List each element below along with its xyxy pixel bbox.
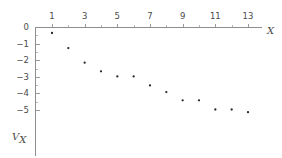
- data-point: [84, 62, 86, 64]
- y-tick-label: −3: [16, 72, 29, 82]
- y-tick-label: −2: [16, 55, 29, 65]
- x-tick-label: 13: [243, 11, 254, 21]
- x-tick-label: 9: [180, 11, 185, 21]
- x-tick-label: 1: [49, 11, 54, 21]
- data-point: [214, 108, 216, 110]
- data-point: [116, 75, 118, 77]
- y-axis-tick-labels: 0−1−2−3−4−5: [16, 22, 29, 115]
- data-point: [165, 91, 167, 93]
- data-point: [198, 99, 200, 101]
- x-axis-label: X: [266, 25, 275, 36]
- x-tick-label: 7: [147, 11, 152, 21]
- data-point: [51, 32, 53, 34]
- data-point: [247, 111, 249, 113]
- x-tick-label: 3: [82, 11, 87, 21]
- scatter-plot-figure: 135791113 0−1−2−3−4−5 X VX: [0, 0, 282, 158]
- data-point-series: [51, 32, 249, 113]
- y-tick-label: −1: [16, 39, 29, 49]
- x-axis-tick-labels: 135791113: [49, 11, 253, 21]
- y-tick-label: −5: [16, 105, 29, 115]
- y-tick-label: 0: [24, 22, 29, 32]
- x-tick-label: 5: [115, 11, 120, 21]
- plot-canvas: 135791113 0−1−2−3−4−5 X VX: [0, 0, 282, 158]
- data-point: [149, 84, 151, 86]
- x-tick-label: 11: [210, 11, 221, 21]
- data-point: [67, 47, 69, 49]
- y-axis-ticks: [36, 36, 40, 111]
- x-axis-ticks: [53, 24, 249, 28]
- y-tick-label: −4: [16, 88, 29, 98]
- data-point: [133, 75, 135, 77]
- axis-group: [35, 27, 262, 156]
- y-axis-label: VX: [12, 131, 27, 145]
- y-axis-label-subscript: X: [18, 134, 27, 145]
- data-point: [100, 70, 102, 72]
- data-point: [182, 99, 184, 101]
- data-point: [231, 108, 233, 110]
